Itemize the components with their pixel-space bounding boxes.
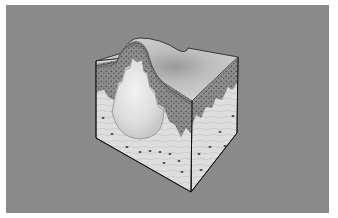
skin-cyst-cross-section-illustration xyxy=(0,0,338,218)
